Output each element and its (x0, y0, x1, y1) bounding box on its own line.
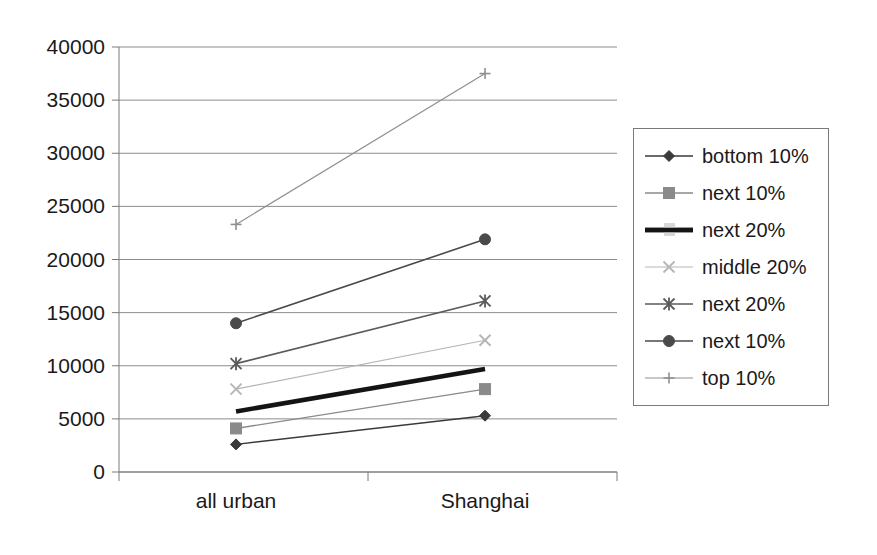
y-axis-tick-label: 30000 (47, 141, 105, 164)
legend-item-label: next 10% (702, 183, 785, 203)
data-point (480, 234, 491, 245)
legend-item[interactable]: next 10% (634, 322, 828, 359)
legend: bottom 10%next 10%next 20%middle 20%next… (633, 128, 829, 406)
series-line-1 (236, 389, 485, 428)
legend-marker-icon (643, 292, 695, 316)
y-axis-tick-label: 35000 (47, 88, 105, 111)
legend-item[interactable]: next 10% (634, 174, 828, 211)
data-point (231, 357, 242, 370)
legend-marker-icon (643, 329, 695, 353)
data-point (231, 439, 242, 450)
y-axis-tick-label: 15000 (47, 301, 105, 324)
data-point (480, 335, 491, 346)
y-axis-tick-label: 0 (93, 460, 105, 483)
y-axis-tick-label: 40000 (47, 35, 105, 58)
y-axis-tick-label: 5000 (58, 407, 105, 430)
legend-rows: bottom 10%next 10%next 20%middle 20%next… (634, 137, 828, 396)
series-line-3 (236, 340, 485, 389)
y-axis-tick-label: 25000 (47, 194, 105, 217)
legend-item[interactable]: next 20% (634, 285, 828, 322)
legend-item-label: top 10% (702, 368, 775, 388)
legend-item[interactable]: bottom 10% (634, 137, 828, 174)
legend-marker-icon (643, 181, 695, 205)
data-point (231, 384, 242, 395)
series-lines (236, 74, 485, 445)
legend-item-label: bottom 10% (702, 146, 809, 166)
data-point (231, 318, 242, 329)
data-point (480, 384, 491, 395)
legend-item[interactable]: middle 20% (634, 248, 828, 285)
y-axis-tick-label: 10000 (47, 354, 105, 377)
legend-marker-icon (643, 218, 695, 242)
series-line-6 (236, 74, 485, 225)
legend-item[interactable]: next 20% (634, 211, 828, 248)
legend-item-label: next 10% (702, 331, 785, 351)
legend-item-label: middle 20% (702, 257, 807, 277)
data-point (480, 294, 491, 307)
legend-item-label: next 20% (702, 294, 785, 314)
legend-item-label: next 20% (702, 220, 785, 240)
y-axis-tick-labels: 0500010000150002000025000300003500040000 (47, 35, 105, 483)
legend-marker-icon (643, 366, 695, 390)
legend-item[interactable]: top 10% (634, 359, 828, 396)
data-point (480, 410, 491, 421)
data-point (480, 68, 491, 79)
x-axis-tick-label: Shanghai (441, 489, 530, 512)
x-axis-tick-label: all urban (196, 489, 277, 512)
x-axis-tick-labels: all urbanShanghai (196, 489, 530, 512)
series-markers (231, 68, 491, 450)
data-point (231, 423, 242, 434)
series-line-2 (236, 369, 485, 412)
series-line-0 (236, 416, 485, 445)
axis-lines (112, 47, 617, 481)
data-point (231, 219, 242, 230)
legend-marker-icon (643, 255, 695, 279)
chart-page: 0500010000150002000025000300003500040000… (0, 0, 877, 555)
y-axis-tick-label: 20000 (47, 248, 105, 271)
legend-marker-icon (643, 144, 695, 168)
